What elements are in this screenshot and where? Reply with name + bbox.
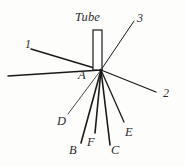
ray-1-upper-left bbox=[31, 49, 101, 70]
point-label-d: D bbox=[57, 115, 66, 128]
ray-number-label-1: 1 bbox=[25, 38, 31, 50]
tube-label: Tube bbox=[75, 11, 100, 24]
point-label-e: E bbox=[125, 126, 133, 139]
vertex-point-a-marker bbox=[99, 68, 102, 71]
tube-ray-diagram: Tube A 123 DBFCE bbox=[0, 0, 185, 166]
ray-number-label-3: 3 bbox=[137, 12, 143, 24]
ray-3-upper-right bbox=[101, 21, 134, 70]
point-label-b: B bbox=[69, 144, 77, 157]
point-label-c: C bbox=[111, 144, 119, 157]
vertex-label-a: A bbox=[78, 69, 86, 82]
ray-number-label-2: 2 bbox=[163, 87, 169, 99]
ray-lower-left bbox=[8, 70, 101, 76]
point-label-f: F bbox=[87, 136, 95, 149]
tube-rectangle bbox=[93, 30, 102, 70]
